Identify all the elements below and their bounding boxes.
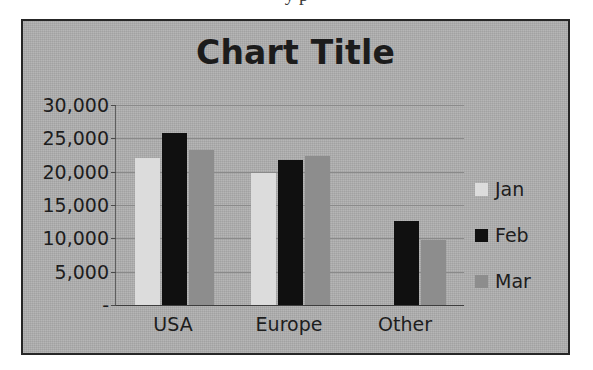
plot-area[interactable] bbox=[115, 105, 464, 306]
y-axis-tick-label: 5,000 bbox=[23, 261, 109, 283]
legend-swatch-icon bbox=[475, 183, 488, 196]
legend-label: Jan bbox=[495, 180, 524, 199]
legend-swatch-icon bbox=[475, 275, 488, 288]
bar-feb-other[interactable] bbox=[394, 221, 419, 305]
plot-wrapper: 30,00025,00020,00015,00010,0005,000- USA… bbox=[23, 21, 570, 355]
y-axis-tick-label: 25,000 bbox=[23, 127, 109, 149]
y-axis-tick-label: 15,000 bbox=[23, 194, 109, 216]
y-axis-tick bbox=[111, 305, 116, 306]
y-axis-labels: 30,00025,00020,00015,00010,0005,000- bbox=[23, 91, 109, 311]
bar-feb-europe[interactable] bbox=[278, 160, 303, 305]
legend-item-jan[interactable]: Jan bbox=[475, 166, 565, 212]
bar-jan-usa[interactable] bbox=[135, 158, 160, 305]
y-axis-tick-label: 10,000 bbox=[23, 227, 109, 249]
y-axis-tick-label: 30,000 bbox=[23, 94, 109, 116]
y-axis-tick-label: 20,000 bbox=[23, 161, 109, 183]
page-top-text-fragment: y p bbox=[0, 0, 593, 6]
bar-feb-usa[interactable] bbox=[162, 133, 187, 305]
legend-item-feb[interactable]: Feb bbox=[475, 212, 565, 258]
x-axis-labels: USAEuropeOther bbox=[115, 313, 463, 335]
legend-label: Feb bbox=[495, 226, 529, 245]
legend-swatch-icon bbox=[475, 229, 488, 242]
x-axis-category-label: Europe bbox=[231, 313, 347, 335]
bar-mar-europe[interactable] bbox=[305, 156, 330, 305]
legend-label: Mar bbox=[495, 272, 531, 291]
bar-group bbox=[232, 105, 348, 305]
bar-group bbox=[348, 105, 464, 305]
bar-jan-europe[interactable] bbox=[251, 173, 276, 305]
bar-mar-other[interactable] bbox=[421, 240, 446, 305]
bar-mar-usa[interactable] bbox=[189, 150, 214, 305]
bar-group bbox=[116, 105, 232, 305]
y-axis-tick-label: - bbox=[23, 294, 109, 316]
legend-item-mar[interactable]: Mar bbox=[475, 258, 565, 304]
bars-layer bbox=[116, 105, 464, 305]
chart-frame[interactable]: Chart Title 30,00025,00020,00015,00010,0… bbox=[21, 19, 570, 355]
x-axis-category-label: Other bbox=[347, 313, 463, 335]
x-axis-category-label: USA bbox=[115, 313, 231, 335]
chart-legend[interactable]: JanFebMar bbox=[475, 166, 565, 304]
